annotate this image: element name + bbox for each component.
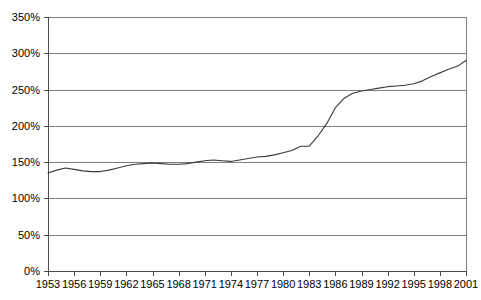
x-tick-label: 1998 [428, 278, 452, 290]
x-tick-label: 1992 [375, 278, 399, 290]
x-tick-label: 1968 [166, 278, 190, 290]
x-tick-label: 1971 [193, 278, 217, 290]
line-chart: 0%50%100%150%200%250%300%350% 1953195619… [0, 0, 481, 300]
y-tick-label: 50% [18, 229, 40, 241]
x-tick-label: 1989 [349, 278, 373, 290]
x-tick-label: 1977 [245, 278, 269, 290]
x-tick-label: 1959 [88, 278, 112, 290]
y-tick-label: 150% [12, 156, 40, 168]
x-tick-label: 1965 [140, 278, 164, 290]
y-tick-label: 0% [24, 265, 40, 277]
plot-frame [44, 17, 467, 272]
x-tick-label: 1986 [323, 278, 347, 290]
y-tick-label-group: 0%50%100%150%200%250%300%350% [12, 11, 40, 277]
data-series-line [48, 61, 466, 173]
x-tick-label: 1995 [402, 278, 426, 290]
x-tick-label: 1956 [62, 278, 86, 290]
x-tick-label-group: 1953195619591962196519681971197419771980… [36, 278, 478, 290]
y-tick-label: 250% [12, 84, 40, 96]
x-tick-label: 1953 [36, 278, 60, 290]
x-tick-label: 1962 [114, 278, 138, 290]
x-tick-label: 1980 [271, 278, 295, 290]
x-tick-label: 1974 [219, 278, 243, 290]
series-group [48, 61, 466, 173]
y-tick-label: 200% [12, 120, 40, 132]
x-tick-label: 1983 [297, 278, 321, 290]
y-tick-label: 300% [12, 47, 40, 59]
chart-container: 0%50%100%150%200%250%300%350% 1953195619… [0, 0, 481, 300]
gridline-group [48, 18, 466, 272]
x-tick-label: 2001 [454, 278, 478, 290]
y-tick-label: 350% [12, 11, 40, 23]
y-tick-label: 100% [12, 192, 40, 204]
